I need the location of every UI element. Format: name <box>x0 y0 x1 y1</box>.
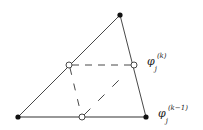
dashed-left-to-bottom <box>70 68 81 114</box>
label-base: φ <box>158 107 166 120</box>
label-base: φ <box>147 55 155 68</box>
node-bottom-mid <box>79 114 85 120</box>
label-phi-k-minus-1: φj(k−1) <box>158 108 188 122</box>
label-sub: j <box>155 65 157 73</box>
vertex-top <box>117 12 122 17</box>
vertex-bottom-right <box>143 114 148 119</box>
node-left-mid <box>66 62 72 68</box>
vertex-bottom-left <box>15 114 20 119</box>
node-right-mid <box>131 62 137 68</box>
label-sub: j <box>166 117 168 125</box>
label-sup: (k) <box>157 52 167 60</box>
dashed-diagonal <box>84 77 122 115</box>
label-phi-k: φj(k) <box>147 56 167 70</box>
label-sup: (k−1) <box>168 104 188 112</box>
